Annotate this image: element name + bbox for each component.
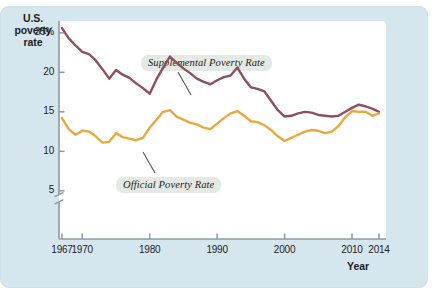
leader-lines-group — [143, 72, 191, 173]
data-lines-group — [62, 28, 379, 143]
axes-group — [55, 21, 387, 239]
chart-vector-layer — [0, 0, 435, 296]
series-line-supplemental — [62, 28, 379, 116]
poverty-rate-chart-figure: U.S. poverty rate 25% 20 15 10 5 1967 19… — [0, 0, 435, 296]
series-line-official — [62, 110, 379, 142]
leader-line-supplemental — [178, 72, 191, 95]
leader-line-official — [143, 152, 155, 173]
